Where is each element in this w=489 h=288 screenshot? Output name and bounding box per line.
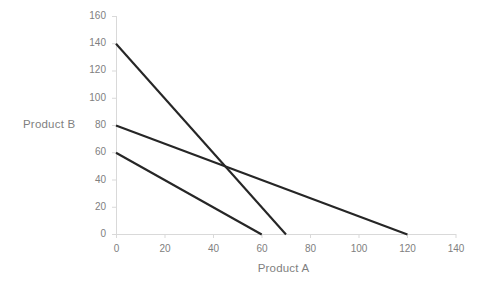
x-tick-label-60: 60	[247, 243, 277, 254]
y-tick-label-20: 20	[80, 201, 106, 212]
series-line-constraint-3	[116, 153, 262, 235]
x-tick-label-100: 100	[344, 243, 374, 254]
series-line-constraint-2	[116, 126, 407, 235]
y-tick-label-80: 80	[80, 119, 106, 130]
x-tick-label-140: 140	[441, 243, 471, 254]
y-tick-label-0: 0	[80, 228, 106, 239]
x-tick-label-80: 80	[296, 243, 326, 254]
x-axis-title-text: Product A	[180, 262, 310, 274]
y-tick-label-120: 120	[80, 64, 106, 75]
y-axis-ticks	[112, 17, 116, 235]
x-tick-label-0: 0	[102, 243, 132, 254]
x-tick-label-40: 40	[199, 243, 229, 254]
y-tick-label-160: 160	[80, 10, 106, 21]
x-tick-label-120: 120	[393, 243, 423, 254]
series-line-constraint-1	[116, 44, 286, 235]
y-axis-title: Product B	[23, 118, 75, 130]
chart-container: 160 140 120 100 80 60 40 20 0 0 20 40 60…	[0, 0, 489, 288]
y-tick-label-100: 100	[80, 92, 106, 103]
y-tick-label-60: 60	[80, 146, 106, 157]
x-axis-title: Product A	[0, 262, 489, 274]
y-tick-label-40: 40	[80, 174, 106, 185]
series-lines	[116, 44, 407, 235]
x-tick-label-20: 20	[150, 243, 180, 254]
y-tick-label-140: 140	[80, 37, 106, 48]
